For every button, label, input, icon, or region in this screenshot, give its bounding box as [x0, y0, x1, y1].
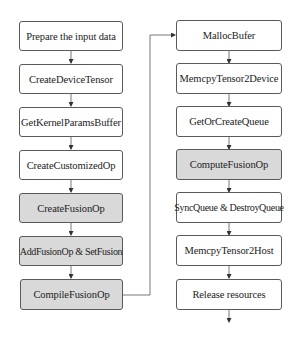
node-get-or-create-queue: GetOrCreateQueue [176, 106, 282, 137]
node-memcpy-tensor2device: MemcpyTensor2Device [176, 63, 282, 94]
node-memcpy-tensor2host: MemcpyTensor2Host [176, 235, 282, 266]
node-prepare-input-data: Prepare the input data [19, 21, 123, 51]
node-compile-fusion-op: CompileFusionOp [20, 279, 123, 310]
node-compute-fusion-op: ComputeFusionOp [176, 149, 282, 180]
arrow-compile-to-malloc [123, 35, 175, 295]
node-sync-destroy-queue: SyncQueue & DestroyQueue [176, 192, 282, 223]
node-malloc-bufer: MallocBufer [176, 20, 282, 51]
node-create-device-tensor: CreateDeviceTensor [19, 64, 123, 94]
node-release-resources: Release resources [176, 279, 282, 310]
flowchart-canvas: Prepare the input data CreateDeviceTenso… [0, 0, 300, 339]
node-add-fusion-op-set-fusion: AddFusionOp & SetFusion [19, 236, 123, 266]
node-get-kernel-params-buffer: GetKernelParamsBuffer [19, 107, 123, 137]
node-create-fusion-op: CreateFusionOp [19, 193, 123, 223]
node-create-customized-op: CreateCustomizedOp [19, 150, 123, 180]
